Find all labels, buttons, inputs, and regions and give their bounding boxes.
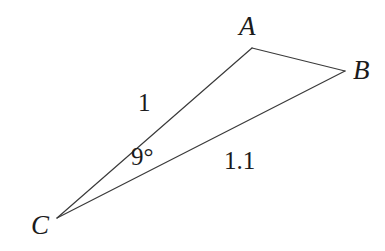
vertex-label-c: C: [31, 212, 49, 239]
vertex-label-a: A: [239, 13, 256, 40]
diagram-background: [0, 0, 385, 251]
triangle-diagram: A B C 1 9° 1.1: [0, 0, 385, 251]
side-length-label-cb: 1.1: [224, 148, 255, 173]
angle-measure-label-c: 9°: [131, 144, 154, 169]
triangle-svg-canvas: [0, 0, 385, 251]
vertex-label-b: B: [353, 57, 370, 84]
side-length-label-ca: 1: [138, 90, 151, 115]
